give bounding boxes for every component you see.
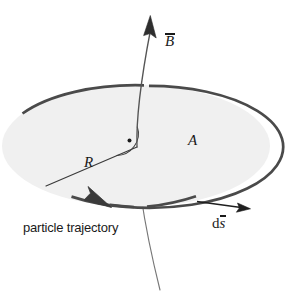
- vector-bar-B: [165, 33, 175, 35]
- vector-s: s: [220, 215, 226, 231]
- vector-B: B: [165, 33, 174, 49]
- vector-bar-s: [220, 215, 227, 217]
- label-area: A: [188, 133, 197, 148]
- label-magnetic-field: B: [165, 33, 174, 49]
- label-B-glyph: B: [165, 34, 174, 49]
- magnetic-field-line-tail: [141, 196, 160, 290]
- label-particle-trajectory: particle trajectory: [23, 221, 118, 234]
- figure-container: B A R ds particle trajectory: [0, 0, 286, 295]
- label-ds: ds: [212, 215, 225, 231]
- ds-arrow-shaft: [197, 202, 241, 208]
- perpendicular-marker-dot: [128, 139, 132, 143]
- label-s-glyph: s: [220, 216, 226, 231]
- label-radius: R: [84, 155, 93, 170]
- diagram-canvas: [0, 0, 286, 295]
- label-ds-prefix: d: [212, 215, 220, 231]
